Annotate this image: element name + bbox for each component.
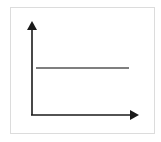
y-axis-arrow-icon — [27, 21, 37, 30]
chart-plot — [0, 0, 161, 142]
x-axis-arrow-icon — [130, 110, 139, 120]
x-axis — [31, 110, 139, 120]
y-axis — [27, 21, 37, 115]
